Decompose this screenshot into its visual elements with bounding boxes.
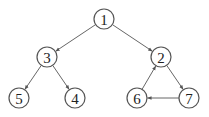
edge-6-to-2 bbox=[142, 66, 156, 89]
node-label: 2 bbox=[157, 50, 165, 66]
node-2: 2 bbox=[151, 47, 171, 67]
node-1: 1 bbox=[94, 9, 114, 29]
node-label: 5 bbox=[15, 91, 23, 107]
node-label: 7 bbox=[185, 91, 193, 107]
graph-diagram: 1325467 bbox=[0, 0, 209, 117]
node-label: 6 bbox=[133, 91, 141, 107]
node-7: 7 bbox=[179, 88, 199, 108]
edge-2-to-7 bbox=[167, 65, 183, 89]
nodes-layer: 1325467 bbox=[9, 9, 199, 108]
edge-3-to-4 bbox=[53, 65, 69, 89]
node-5: 5 bbox=[9, 88, 29, 108]
node-6: 6 bbox=[127, 88, 147, 108]
node-label: 3 bbox=[43, 50, 51, 66]
node-3: 3 bbox=[37, 47, 57, 67]
edge-1-to-2 bbox=[112, 25, 152, 52]
node-4: 4 bbox=[65, 88, 85, 108]
edge-1-to-3 bbox=[56, 25, 96, 52]
node-label: 4 bbox=[71, 91, 79, 107]
edge-3-to-5 bbox=[25, 65, 41, 89]
node-label: 1 bbox=[100, 12, 108, 28]
